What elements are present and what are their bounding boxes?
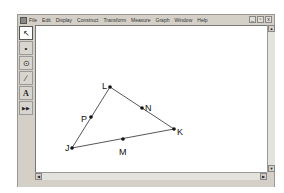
point-label-J[interactable]: J — [65, 143, 70, 153]
point-label-L[interactable]: L — [102, 81, 107, 91]
point-K[interactable] — [172, 127, 176, 131]
point-label-M[interactable]: M — [119, 147, 127, 157]
point-label-K[interactable]: K — [177, 127, 183, 137]
point-N[interactable] — [140, 106, 144, 110]
point-label-P[interactable]: P — [81, 114, 87, 124]
point-label-N[interactable]: N — [145, 103, 152, 113]
point-M[interactable] — [121, 137, 125, 141]
point-P[interactable] — [89, 115, 93, 119]
triangle-figure: LKJNMP — [0, 0, 284, 193]
point-J[interactable] — [70, 146, 74, 150]
point-L[interactable] — [108, 85, 112, 89]
